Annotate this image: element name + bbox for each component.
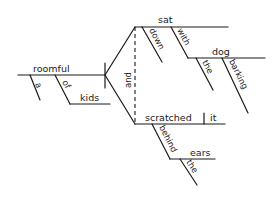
word-roomful: roomful — [33, 63, 70, 74]
fork-upper — [105, 27, 135, 75]
word-the-2: the — [184, 158, 200, 175]
word-with: with — [175, 26, 192, 47]
word-kids: kids — [80, 92, 99, 103]
word-it: it — [210, 112, 217, 123]
word-and: and — [123, 72, 133, 88]
word-sat: sat — [158, 14, 173, 25]
word-the-1: the — [200, 58, 215, 75]
word-down: down — [147, 26, 167, 51]
word-a: a — [33, 81, 44, 90]
word-ears: ears — [190, 147, 211, 158]
sentence-diagram: roomful a of kids and sat down with dog … — [0, 0, 280, 199]
word-dog: dog — [212, 46, 230, 57]
word-barking: barking — [227, 57, 250, 90]
word-scratched: scratched — [145, 112, 192, 123]
word-behind: behind — [157, 123, 179, 154]
